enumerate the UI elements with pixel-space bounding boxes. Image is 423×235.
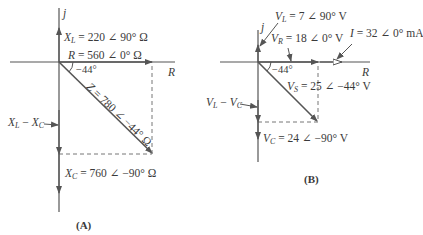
- vs-label-b: VS = 25 ∠ −44° V: [287, 81, 371, 94]
- vl-label-b: VL = 7 ∠ 90° V: [275, 11, 347, 24]
- vr-label-b: VR = 18 ∠ 0° V: [271, 33, 343, 46]
- angle-arc-b: [267, 62, 271, 71]
- caption-b: (B): [304, 174, 319, 185]
- real-axis-label-a: R: [168, 67, 175, 79]
- xl-minus-xc-label-a: XL − XC: [8, 117, 44, 130]
- i-label-b: I = 32 ∠ 0° mA: [350, 28, 423, 40]
- vr-pointer-b: [288, 48, 291, 61]
- imag-axis-label-b: j: [261, 22, 264, 34]
- xc-label-a: XC = 760 ∠ −90° Ω: [65, 168, 156, 181]
- real-axis-label-b: R: [362, 67, 369, 79]
- xl-xc-pointer-a: [44, 124, 58, 125]
- angle-label-b: −44°: [272, 65, 293, 76]
- vl-minus-vc-label-b: VL − VC: [206, 97, 242, 110]
- angle-label-a: −44°: [76, 65, 97, 76]
- xl-label-a: XL = 220 ∠ 90° Ω: [64, 32, 148, 45]
- vl-vc-pointer-b: [240, 104, 257, 107]
- imag-axis-label-a: j: [63, 8, 66, 20]
- angle-arc-a: [69, 62, 73, 72]
- caption-a: (A): [76, 220, 91, 231]
- r-label-a: R = 560 ∠ 0° Ω: [68, 50, 142, 62]
- i-pointer-b: [337, 44, 352, 59]
- vc-label-b: VC = 24 ∠ −90° V: [263, 133, 348, 146]
